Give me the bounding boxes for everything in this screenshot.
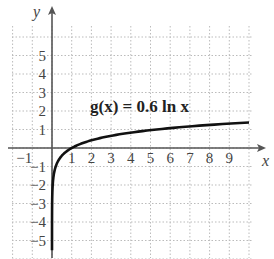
x-tick-label: 3 <box>107 150 115 166</box>
y-tick-label: 4 <box>39 66 47 82</box>
x-tick-labels: −1123456789 <box>16 150 233 166</box>
x-tick-label: 7 <box>186 150 194 166</box>
y-tick-label: 5 <box>39 48 47 64</box>
y-tick-label: 2 <box>39 103 47 119</box>
y-tick-label: 3 <box>39 85 47 101</box>
graph: y x −1123456789 54321−1−2−3−4−5 g(x) = 0… <box>0 0 274 259</box>
y-axis-label: y <box>31 3 41 21</box>
x-tick-label: 1 <box>68 150 76 166</box>
x-tick-label: 5 <box>147 150 155 166</box>
x-tick-label: 8 <box>206 150 214 166</box>
x-tick-label: 6 <box>166 150 174 166</box>
y-tick-label: −4 <box>30 214 46 230</box>
y-tick-label: −2 <box>30 177 46 193</box>
y-tick-label: 1 <box>39 122 47 138</box>
x-tick-label: 9 <box>226 150 234 166</box>
y-tick-label: −3 <box>30 196 46 212</box>
equation-label: g(x) = 0.6 ln x <box>90 97 189 116</box>
x-axis-label: x <box>261 152 269 169</box>
y-tick-label: −1 <box>30 159 46 175</box>
grid <box>12 26 252 259</box>
y-tick-label: −5 <box>30 233 46 249</box>
x-tick-label: 2 <box>88 150 96 166</box>
x-tick-label: 4 <box>127 150 135 166</box>
